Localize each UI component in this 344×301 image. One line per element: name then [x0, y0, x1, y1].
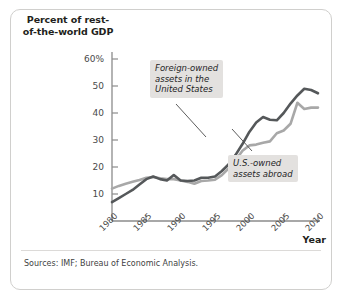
annotation-foreign-owned-assets: Foreign-owned assets in the United State…: [150, 60, 223, 98]
source-divider: [21, 250, 321, 251]
leader-line-foreign: [176, 104, 206, 137]
plot-canvas: [0, 0, 344, 301]
x-axis-title: Year: [302, 234, 326, 245]
y-tick-marks: [112, 59, 118, 194]
series-line-foreign-owned-assets-us: [112, 89, 318, 202]
annotation-us-owned-assets: U.S.-owned assets abroad: [228, 155, 298, 182]
chart-figure: Percent of rest-of-the-world GDP 60% 50 …: [0, 0, 344, 301]
source-note: Sources: IMF; Bureau of Economic Analysi…: [24, 259, 198, 268]
